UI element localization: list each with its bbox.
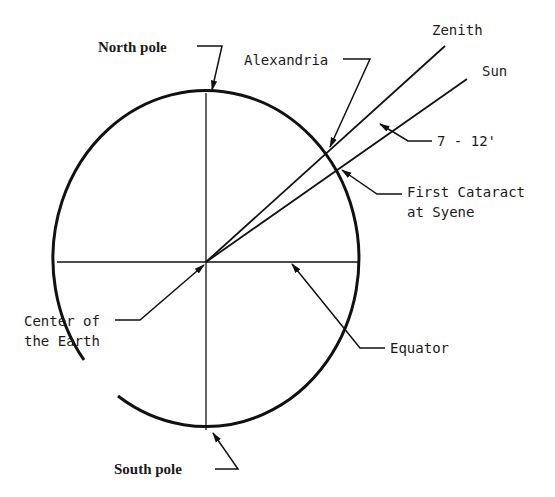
zenith-line bbox=[206, 46, 445, 262]
alexandria-label: Alexandria bbox=[244, 52, 328, 68]
equator-leader bbox=[292, 264, 385, 348]
sun-line bbox=[206, 79, 467, 262]
north-pole-label: North pole bbox=[98, 39, 167, 55]
sun-label: Sun bbox=[482, 63, 507, 79]
center-label-1: Center of bbox=[24, 313, 100, 329]
south-pole-label: South pole bbox=[114, 461, 182, 477]
north-pole-leader bbox=[197, 46, 222, 90]
south-pole-leader bbox=[213, 433, 238, 469]
angle-leader bbox=[380, 124, 432, 141]
cataract-label-2: at Syene bbox=[407, 204, 474, 220]
cataract-leader bbox=[342, 170, 402, 194]
equator-label: Equator bbox=[390, 340, 449, 356]
earth-diagram: North pole Alexandria Zenith Sun 7 - 12'… bbox=[0, 0, 555, 497]
center-leader bbox=[115, 265, 204, 320]
zenith-label: Zenith bbox=[432, 22, 483, 38]
center-label-2: the Earth bbox=[24, 333, 100, 349]
cataract-label-1: First Cataract bbox=[407, 184, 525, 200]
alexandria-leader bbox=[330, 59, 370, 147]
angle-label: 7 - 12' bbox=[437, 133, 496, 149]
